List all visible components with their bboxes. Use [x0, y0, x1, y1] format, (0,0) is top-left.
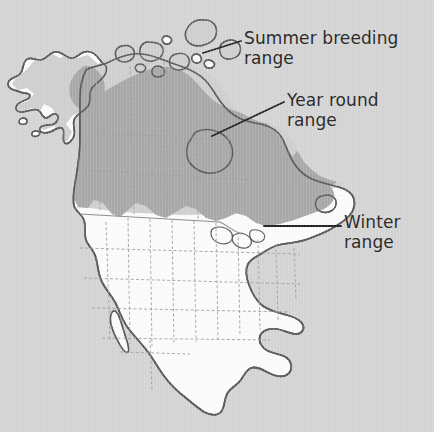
range-map-figure: Summer breeding range Year round range W… — [0, 0, 434, 432]
summer-breeding-range-label: Summer breeding range — [244, 28, 398, 68]
year-round-range-label: Year round range — [287, 90, 379, 130]
winter-range-label: Winter range — [344, 212, 401, 252]
